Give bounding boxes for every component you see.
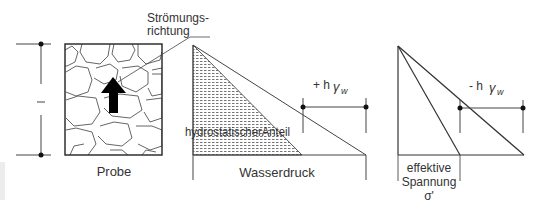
gamma-w-label: γ bbox=[333, 79, 341, 94]
soil-sample bbox=[65, 44, 162, 155]
flow-direction-label-2: richtung bbox=[147, 24, 190, 38]
gamma-w-label: γ bbox=[489, 80, 497, 95]
sample-label: Probe bbox=[97, 164, 132, 179]
water-pressure-label: Wasserdruck bbox=[239, 165, 315, 180]
flow-direction-label-1: Strömungs- bbox=[147, 11, 209, 25]
flow-direction-arrow-icon bbox=[101, 77, 126, 113]
gamma-w-subscript: w bbox=[341, 86, 348, 96]
hydrostatic-label: hydrostatischerAnteil bbox=[185, 125, 290, 139]
effective-stress-symbol: σ' bbox=[424, 189, 434, 203]
effective-stress-label-1: effektive bbox=[407, 161, 452, 175]
plus-h-gamma-dimension bbox=[303, 98, 366, 133]
side-margin-box bbox=[0, 162, 5, 200]
seepage-diagram: Strömungs- richtung Probe hydrostatische… bbox=[0, 0, 537, 209]
dimension-dot bbox=[301, 105, 306, 110]
dimension-dot bbox=[521, 106, 526, 111]
water-pressure-diagram bbox=[193, 45, 366, 180]
minus-h-gamma-dimension bbox=[460, 100, 523, 133]
dimension-dot bbox=[364, 105, 369, 110]
effective-stress-label-2: Spannung bbox=[402, 175, 457, 189]
minus-h-label: - h bbox=[469, 79, 483, 93]
gamma-w-subscript: w bbox=[497, 87, 504, 97]
dimension-dot-bottom bbox=[39, 153, 44, 158]
plus-h-label: + h bbox=[313, 78, 330, 92]
length-dimension bbox=[16, 44, 51, 155]
dimension-dot-top bbox=[39, 42, 44, 47]
dimension-dot bbox=[458, 106, 463, 111]
